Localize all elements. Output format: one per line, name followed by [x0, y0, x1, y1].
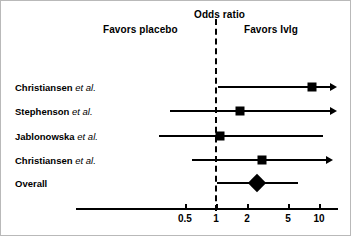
study-name: Christiansen	[15, 82, 73, 93]
point-estimate-marker	[216, 132, 225, 141]
study-suffix: et al.	[69, 106, 92, 117]
confidence-interval-line	[159, 135, 323, 137]
study-name: Christiansen	[15, 155, 73, 166]
axis-tick	[319, 204, 321, 209]
forest-plot: Odds ratio Favors placebo Favors Ivlg Ch…	[0, 0, 351, 236]
study-name: Stephenson	[15, 106, 69, 117]
study-label: Overall	[15, 178, 47, 189]
study-suffix: et al.	[73, 155, 96, 166]
ci-arrow-right-icon	[330, 83, 337, 91]
study-name: Jablonowska	[15, 131, 75, 142]
axis-tick-label: 2	[244, 213, 250, 224]
axis-tick-label: 1	[213, 213, 219, 224]
study-suffix: et al.	[75, 131, 98, 142]
x-axis-line	[76, 208, 338, 210]
point-estimate-marker	[235, 107, 244, 116]
point-estimate-marker	[258, 156, 267, 165]
study-label: Christiansen et al.	[15, 82, 96, 93]
favors-right-label: Favors Ivlg	[244, 24, 298, 35]
study-label: Stephenson et al.	[15, 106, 93, 117]
point-estimate-marker	[307, 83, 316, 92]
confidence-interval-line	[170, 110, 330, 112]
study-name: Overall	[15, 178, 47, 189]
favors-left-label: Favors placebo	[103, 24, 178, 35]
axis-tick	[247, 204, 249, 209]
study-suffix: et al.	[73, 82, 96, 93]
axis-tick	[185, 204, 187, 209]
study-label: Jablonowska et al.	[15, 131, 98, 142]
chart-title: Odds ratio	[194, 9, 245, 20]
axis-tick-label: 10	[313, 213, 324, 224]
study-label: Christiansen et al.	[15, 155, 96, 166]
axis-tick	[216, 204, 218, 209]
axis-tick-label: 5	[285, 213, 291, 224]
axis-tick	[288, 204, 290, 209]
summary-diamond-marker	[248, 174, 266, 192]
ci-arrow-right-icon	[330, 107, 337, 115]
ci-arrow-right-icon	[326, 156, 333, 164]
axis-tick-label: 0.5	[178, 213, 192, 224]
